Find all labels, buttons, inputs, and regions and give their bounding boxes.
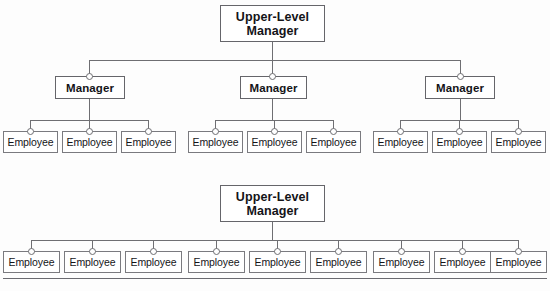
node-label: Employee	[496, 256, 542, 268]
joint-t1-e9	[515, 128, 522, 135]
connector-root-stem	[272, 42, 273, 60]
joint-t1-e8	[456, 128, 463, 135]
joint-t2-e5	[274, 248, 281, 255]
joint-t1-e7	[397, 128, 404, 135]
joint-t1-e3	[145, 128, 152, 135]
node-label: Employee	[255, 256, 301, 268]
org-chart-page: Upper-Level Manager Manager Manager Mana…	[0, 0, 550, 291]
node-label: Employee	[126, 136, 172, 148]
node-label-line1: Upper-Level	[236, 10, 309, 24]
joint-t2-e8	[459, 248, 466, 255]
node-label: Employee	[70, 256, 116, 268]
node-label: Employee	[9, 256, 55, 268]
node-label-line1: Upper-Level	[236, 190, 309, 204]
connector-flat-bus	[31, 240, 518, 241]
joint-t2-e3	[150, 248, 157, 255]
node-label: Employee	[131, 256, 177, 268]
node-label: Employee	[252, 136, 298, 148]
joint-manager-2	[269, 73, 276, 80]
joint-manager-1	[86, 73, 93, 80]
joint-t1-e4	[212, 128, 219, 135]
node-label: Employee	[193, 136, 239, 148]
node-upper-level-manager-top[interactable]: Upper-Level Manager	[220, 5, 325, 42]
node-label: Employee	[311, 136, 357, 148]
connector-flat-root-stem	[272, 222, 273, 240]
node-label: Employee	[496, 136, 542, 148]
joint-t2-e1	[28, 248, 35, 255]
node-label: Employee	[8, 136, 54, 148]
node-label-line2: Manager	[236, 204, 309, 218]
connector-stem-manager-3	[460, 99, 461, 120]
joint-t2-e2	[89, 248, 96, 255]
connector-stem-manager-1	[89, 99, 90, 120]
joint-t2-e9	[515, 248, 522, 255]
node-label: Employee	[437, 136, 483, 148]
node-upper-level-manager-flat[interactable]: Upper-Level Manager	[220, 185, 325, 222]
connector-stem-manager-2	[272, 99, 273, 120]
node-label: Manager	[250, 82, 298, 94]
joint-t1-e5	[271, 128, 278, 135]
joint-t1-e6	[330, 128, 337, 135]
node-label-line2: Manager	[236, 24, 309, 38]
joint-t1-e2	[86, 128, 93, 135]
joint-t1-e1	[27, 128, 34, 135]
node-label: Employee	[378, 136, 424, 148]
node-label: Manager	[66, 82, 114, 94]
node-label: Employee	[67, 136, 113, 148]
joint-t2-e7	[398, 248, 405, 255]
joint-manager-3	[457, 73, 464, 80]
page-bottom-rule	[3, 278, 547, 279]
connector-level1-bus	[89, 60, 460, 61]
node-label: Manager	[436, 82, 484, 94]
node-label: Upper-Level Manager	[236, 10, 309, 38]
node-label: Upper-Level Manager	[236, 190, 309, 218]
joint-t2-e6	[335, 248, 342, 255]
joint-t2-e4	[213, 248, 220, 255]
node-label: Employee	[440, 256, 486, 268]
node-label: Employee	[379, 256, 425, 268]
node-label: Employee	[194, 256, 240, 268]
node-label: Employee	[316, 256, 362, 268]
